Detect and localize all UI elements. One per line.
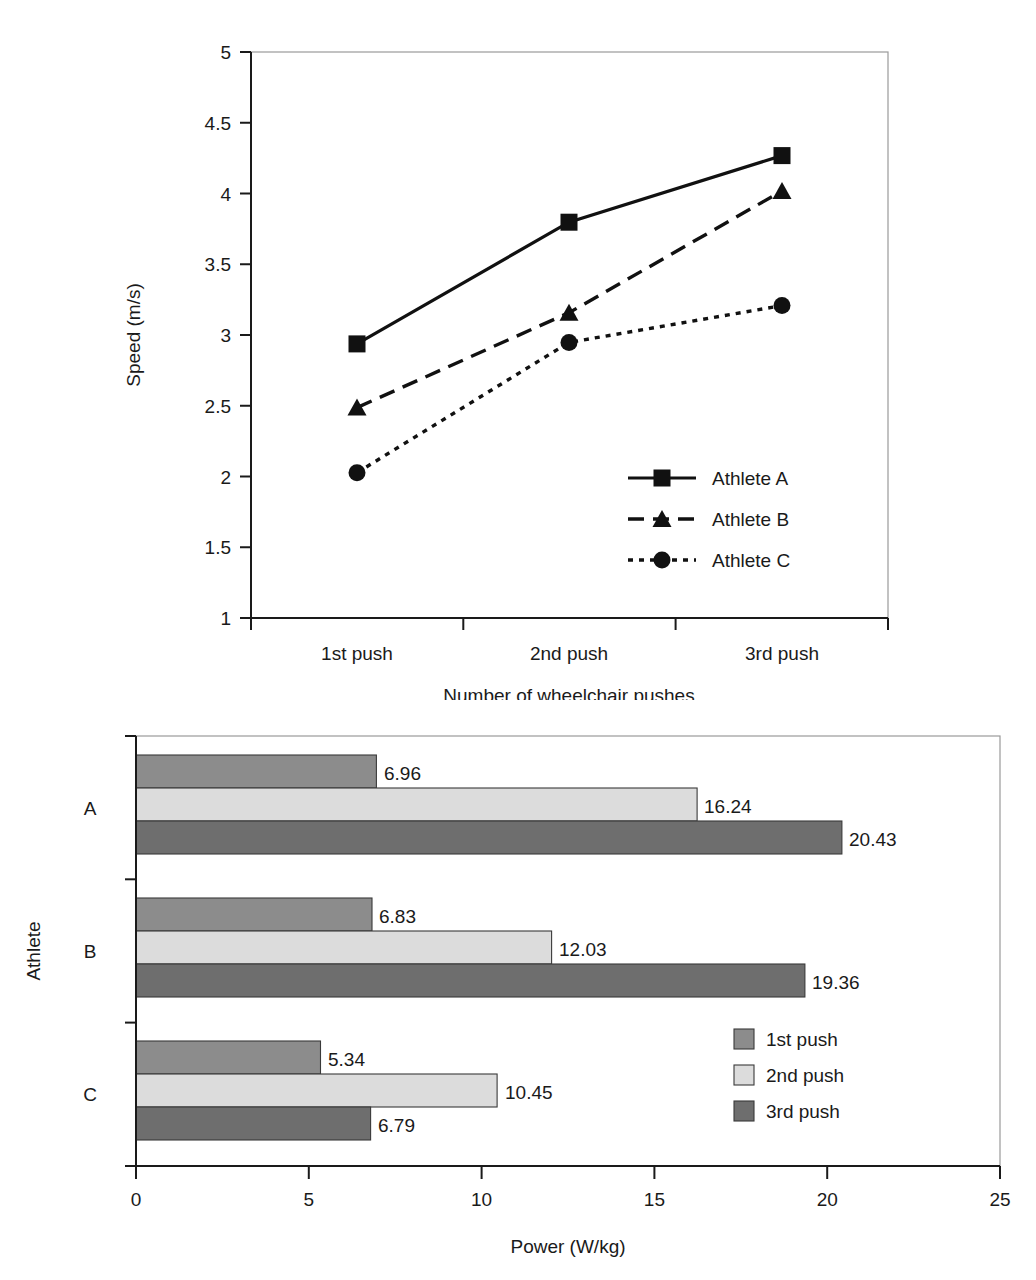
y-tick-2: 2 — [220, 467, 231, 488]
bar-x-axis-title: Power (W/kg) — [510, 1236, 625, 1257]
bar-c-3rd-value: 6.79 — [378, 1115, 415, 1136]
bar-chart-legend: 1st push 2nd push 3rd push — [734, 1029, 844, 1122]
bar-c-1st-value: 5.34 — [328, 1049, 365, 1070]
x-tick-25: 25 — [989, 1189, 1010, 1210]
y-tick-1.5: 1.5 — [205, 537, 231, 558]
bar-a-1st-value: 6.96 — [384, 763, 421, 784]
line-chart-legend: Athlete A Athlete B Athlete C — [628, 468, 790, 571]
y-tick-4.5: 4.5 — [205, 113, 231, 134]
bar-x-tick-labels: 0 5 10 15 20 25 — [131, 1189, 1011, 1210]
series-athlete-a-markers — [349, 147, 791, 352]
x-tick-2nd-push: 2nd push — [530, 643, 608, 664]
bar-b-2nd-value: 12.03 — [559, 939, 607, 960]
x-tick-1st-push: 1st push — [321, 643, 393, 664]
bar-a-3rd-value: 20.43 — [849, 829, 897, 850]
x-tick-5: 5 — [304, 1189, 315, 1210]
legend-swatch-2nd-push — [734, 1065, 754, 1085]
cat-label-a: A — [84, 798, 97, 819]
series-athlete-c-markers — [349, 297, 791, 481]
line-x-tick-labels: 1st push 2nd push 3rd push — [321, 643, 819, 664]
line-x-ticks — [251, 618, 888, 630]
line-y-axis-title: Speed (m/s) — [123, 283, 144, 386]
bar-group-a: 6.96 16.24 20.43 — [136, 755, 897, 854]
bar-a-1st-push — [136, 755, 376, 788]
bar-y-tick-labels: A B C — [83, 798, 97, 1105]
line-y-tick-labels: 5 4.5 4 3.5 3 2.5 2 1.5 1 — [205, 42, 232, 629]
figure-container: 5 4.5 4 3.5 3 2.5 2 1.5 1 1st push 2nd p… — [0, 0, 1036, 1280]
y-tick-5: 5 — [220, 42, 231, 63]
speed-line-chart: 5 4.5 4 3.5 3 2.5 2 1.5 1 1st push 2nd p… — [0, 0, 1036, 700]
power-bar-chart: 6.96 16.24 20.43 6.83 12.03 19.36 5.34 1… — [0, 700, 1036, 1280]
legend-label-athlete-c: Athlete C — [712, 550, 790, 571]
y-tick-3.5: 3.5 — [205, 254, 231, 275]
x-tick-20: 20 — [817, 1189, 838, 1210]
legend-label-1st-push: 1st push — [766, 1029, 838, 1050]
bar-group-b: 6.83 12.03 19.36 — [136, 898, 860, 997]
bar-y-axis-title: Athlete — [23, 921, 44, 980]
bar-c-2nd-value: 10.45 — [505, 1082, 553, 1103]
legend-swatch-3rd-push — [734, 1101, 754, 1121]
x-tick-15: 15 — [644, 1189, 665, 1210]
legend-label-3rd-push: 3rd push — [766, 1101, 840, 1122]
bar-b-3rd-push — [136, 964, 805, 997]
x-tick-0: 0 — [131, 1189, 142, 1210]
legend-label-athlete-a: Athlete A — [712, 468, 788, 489]
y-tick-3: 3 — [220, 325, 231, 346]
bar-group-c: 5.34 10.45 6.79 — [136, 1041, 553, 1140]
y-tick-4: 4 — [220, 184, 231, 205]
y-tick-1: 1 — [220, 608, 231, 629]
legend-label-2nd-push: 2nd push — [766, 1065, 844, 1086]
x-tick-10: 10 — [471, 1189, 492, 1210]
bar-c-1st-push — [136, 1041, 321, 1074]
bar-c-3rd-push — [136, 1107, 371, 1140]
bar-b-1st-push — [136, 898, 372, 931]
bar-a-2nd-push — [136, 788, 697, 821]
line-y-ticks — [240, 52, 251, 618]
cat-label-c: C — [83, 1084, 97, 1105]
bar-b-1st-value: 6.83 — [379, 906, 416, 927]
bar-x-ticks — [136, 1166, 1000, 1179]
series-athlete-c-line — [357, 306, 782, 473]
legend-marker-a — [654, 470, 671, 487]
bar-b-2nd-push — [136, 931, 552, 964]
cat-label-b: B — [84, 941, 97, 962]
bar-a-2nd-value: 16.24 — [704, 796, 752, 817]
legend-marker-c — [654, 552, 671, 569]
line-x-axis-title: Number of wheelchair pushes — [443, 685, 694, 700]
y-tick-2.5: 2.5 — [205, 396, 231, 417]
bar-a-3rd-push — [136, 821, 842, 854]
bar-y-ticks — [125, 736, 136, 1166]
x-tick-3rd-push: 3rd push — [745, 643, 819, 664]
bar-b-3rd-value: 19.36 — [812, 972, 860, 993]
legend-label-athlete-b: Athlete B — [712, 509, 789, 530]
bar-c-2nd-push — [136, 1074, 497, 1107]
legend-swatch-1st-push — [734, 1029, 754, 1049]
